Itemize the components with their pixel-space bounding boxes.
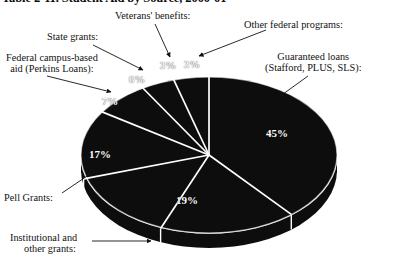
pie-chart-figure: Table 2-11. Student Aid by Source, 2000-… <box>0 0 402 263</box>
callout-veterans-benefits: Veterans' benefits: <box>115 10 190 21</box>
callout-veterans-text: Veterans' benefits: <box>115 10 190 21</box>
pie-label-veterans: 3% <box>160 59 177 71</box>
callout-institutional-other-grants: Institutional and other grants: <box>10 232 77 255</box>
callout-other-federal-text: Other federal programs: <box>244 19 343 30</box>
callout-guaranteed-line2: (Stafford, PLUS, SLS): <box>265 62 362 73</box>
pie-top-face <box>81 77 337 233</box>
pie-label-guaranteed: 45% <box>266 127 288 139</box>
callout-guaranteed-loans: Guaranteed loans (Stafford, PLUS, SLS): <box>265 51 362 74</box>
callout-institutional-line2: other grants: <box>10 243 77 254</box>
callout-pell-text: Pell Grants: <box>4 192 53 203</box>
callout-federal-campus-based-aid: Federal campus-based aid (Perkins Loans)… <box>6 52 98 75</box>
callout-other-federal-programs: Other federal programs: <box>244 19 343 30</box>
pie-label-other-federal: 3% <box>184 58 201 70</box>
pie-label-institutional: 19% <box>176 194 198 206</box>
callout-state-grants-text: State grants: <box>47 31 98 42</box>
pie-label-campus: 7% <box>102 95 119 107</box>
callout-pell-grants: Pell Grants: <box>4 192 53 203</box>
callout-campus-line1: Federal campus-based <box>6 52 98 63</box>
callout-campus-line2: aid (Perkins Loans): <box>6 63 98 74</box>
callout-state-grants: State grants: <box>47 31 98 42</box>
callout-institutional-line1: Institutional and <box>10 232 77 243</box>
pie-label-pell: 17% <box>89 148 111 160</box>
pie-label-state: 6% <box>129 73 146 85</box>
callout-guaranteed-line1: Guaranteed loans <box>277 51 349 62</box>
